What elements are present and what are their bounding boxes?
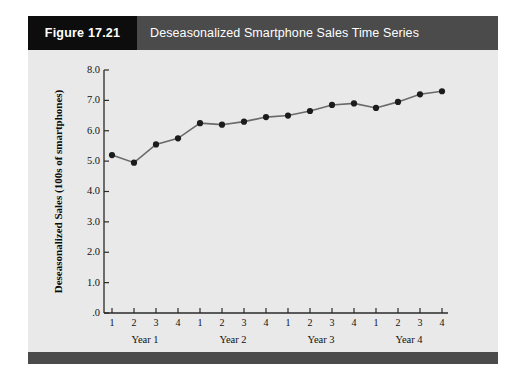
x-tick-label: 3 bbox=[418, 317, 423, 328]
figure-footer-bar bbox=[28, 352, 498, 364]
data-point-marker bbox=[153, 141, 159, 147]
y-tick-label: 3.0 bbox=[87, 216, 100, 227]
x-tick-label: 1 bbox=[374, 317, 379, 328]
data-point-marker bbox=[109, 152, 115, 158]
x-tick-label: 4 bbox=[264, 317, 269, 328]
data-point-marker bbox=[197, 120, 203, 126]
data-point-marker bbox=[131, 160, 137, 166]
data-point-marker bbox=[285, 112, 291, 118]
data-point-marker bbox=[241, 119, 247, 125]
data-point-marker bbox=[417, 91, 423, 97]
x-tick-label: 2 bbox=[308, 317, 313, 328]
data-point-marker bbox=[219, 122, 225, 128]
series-line bbox=[112, 91, 442, 162]
x-group-label: Year 4 bbox=[395, 334, 423, 345]
x-tick-label: 1 bbox=[198, 317, 203, 328]
y-tick-label: 8.0 bbox=[87, 64, 100, 75]
x-tick-label: 2 bbox=[220, 317, 225, 328]
x-tick-label: 1 bbox=[110, 317, 115, 328]
y-tick-label: 7.0 bbox=[87, 94, 100, 105]
x-tick-label: 3 bbox=[242, 317, 247, 328]
chart-plot-area: .01.02.03.04.05.06.07.08.012341234123412… bbox=[0, 0, 526, 388]
x-tick-label: 1 bbox=[286, 317, 291, 328]
y-tick-label: 6.0 bbox=[87, 125, 100, 136]
data-point-marker bbox=[395, 99, 401, 105]
x-group-label: Year 1 bbox=[131, 334, 158, 345]
x-tick-label: 3 bbox=[330, 317, 335, 328]
y-tick-label: 5.0 bbox=[87, 155, 100, 166]
y-axis-title: Deseasonalized Sales (100s of smartphone… bbox=[52, 89, 65, 293]
y-tick-label: 4.0 bbox=[87, 185, 100, 196]
data-point-marker bbox=[351, 100, 357, 106]
figure-root: Figure 17.21 Deseasonalized Smartphone S… bbox=[0, 0, 526, 388]
data-point-marker bbox=[307, 108, 313, 114]
data-point-marker bbox=[373, 105, 379, 111]
y-tick-label: .0 bbox=[92, 307, 100, 318]
y-tick-label: 2.0 bbox=[87, 246, 100, 257]
data-point-marker bbox=[439, 88, 445, 94]
line-chart: .01.02.03.04.05.06.07.08.012341234123412… bbox=[0, 0, 526, 388]
x-tick-label: 2 bbox=[396, 317, 401, 328]
x-tick-label: 3 bbox=[154, 317, 159, 328]
data-point-marker bbox=[329, 102, 335, 108]
x-tick-label: 4 bbox=[440, 317, 445, 328]
data-point-marker bbox=[175, 135, 181, 141]
x-tick-label: 4 bbox=[176, 317, 181, 328]
x-tick-label: 2 bbox=[132, 317, 137, 328]
y-tick-label: 1.0 bbox=[87, 277, 100, 288]
data-point-marker bbox=[263, 114, 269, 120]
x-tick-label: 4 bbox=[352, 317, 357, 328]
x-group-label: Year 2 bbox=[219, 334, 246, 345]
x-group-label: Year 3 bbox=[307, 334, 334, 345]
